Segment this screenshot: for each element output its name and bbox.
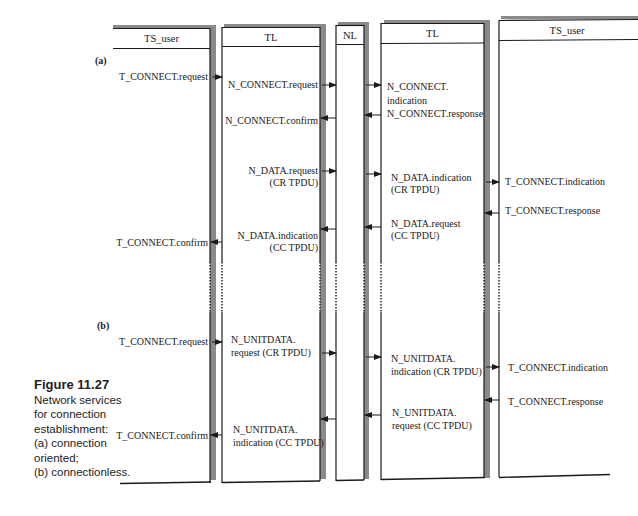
label-a-t-connect-indication: T_CONNECT.indication	[505, 176, 605, 188]
caption-line: (a) connection	[34, 436, 131, 451]
box-nl	[336, 22, 369, 481]
label-b-n-unitdata-request-cc-1: N_UNITDATA.	[392, 407, 456, 419]
column-header-ts-user-left: TS_user	[113, 33, 210, 44]
label-a-n-data-request-cc-1: N_DATA.request	[391, 218, 460, 230]
column-header-nl: NL	[336, 30, 364, 41]
caption-line: oriented;	[34, 451, 131, 466]
label-a-n-data-indication-cr-1: N_DATA.indication	[391, 172, 472, 184]
part-a-label: (a)	[95, 55, 107, 66]
label-b-t-connect-request: T_CONNECT.request	[119, 336, 208, 348]
column-header-ts-user-right: TS_user	[499, 25, 635, 36]
label-a-n-data-request-cr-1: N_DATA.request	[249, 165, 318, 177]
label-a-n-connect-confirm: N_CONNECT.confirm	[225, 115, 318, 127]
caption-line: (b) connectionless.	[34, 465, 131, 480]
label-a-n-data-indication-cr-2: (CR TPDU)	[391, 184, 439, 196]
label-a-t-connect-confirm: T_CONNECT.confirm	[116, 237, 208, 249]
column-header-tl-left: TL	[222, 32, 320, 43]
label-a-t-connect-response: T_CONNECT.response	[505, 205, 600, 217]
label-b-n-unitdata-indication-cc-2: indication (CC TPDU)	[233, 437, 324, 449]
label-b-t-connect-indication: T_CONNECT.indication	[508, 362, 608, 374]
caption-line: establishment:	[34, 422, 131, 437]
label-a-n-data-request-cc-2: (CC TPDU)	[391, 230, 439, 242]
label-a-n-connect-request: N_CONNECT.request	[228, 79, 318, 91]
label-a-n-data-indication-cc-1: N_DATA.indication	[237, 230, 318, 242]
box-ts-user-right	[499, 16, 638, 478]
figure-title: Figure 11.27	[34, 378, 131, 393]
label-a-t-connect-request: T_CONNECT.request	[119, 71, 208, 83]
label-a-n-data-indication-cc-2: (CC TPDU)	[270, 242, 318, 254]
label-b-t-connect-response: T_CONNECT.response	[508, 396, 603, 408]
label-a-n-connect-response: N_CONNECT.response	[387, 108, 483, 120]
caption-line: for connection	[34, 407, 131, 422]
label-b-n-unitdata-indication-cr-1: N_UNITDATA.	[391, 353, 455, 365]
figure-caption: Figure 11.27 Network services for connec…	[34, 378, 131, 480]
label-a-n-data-request-cr-2: (CR TPDU)	[270, 177, 318, 189]
label-b-n-unitdata-request-cr-1: N_UNITDATA.	[231, 334, 295, 346]
caption-line: Network services	[34, 393, 131, 408]
label-a-n-connect-indication-1: N_CONNECT.	[387, 81, 448, 93]
part-b-label: (b)	[97, 320, 109, 331]
label-b-n-unitdata-indication-cr-2: indication (CR TPDU)	[391, 366, 482, 378]
label-b-n-unitdata-request-cr-2: request (CR TPDU)	[231, 347, 311, 359]
label-b-n-unitdata-indication-cc-1: N_UNITDATA.	[233, 424, 297, 436]
label-b-n-unitdata-request-cc-2: request (CC TPDU)	[392, 420, 472, 432]
column-header-tl-right: TL	[381, 28, 484, 39]
label-a-n-connect-indication-2: indication	[387, 95, 427, 107]
